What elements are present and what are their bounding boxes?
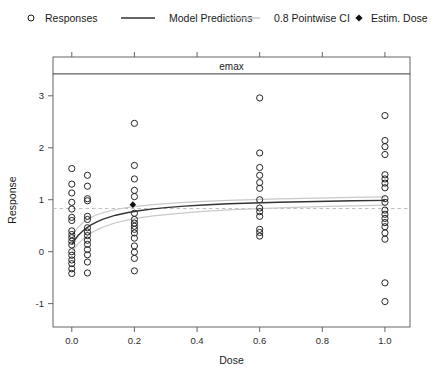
y-tick-label: 0 [39,246,44,257]
panel-strip: emax [53,57,410,74]
x-tick-label: 1.0 [378,335,391,346]
y-tick-label: -1 [36,298,44,309]
x-tick-label: 0.2 [128,335,141,346]
dose-response-figure: Responses Model Predictions 0.8 Pointwis… [0,0,436,375]
y-tick-label: 3 [39,90,44,101]
x-tick-label: 0.0 [65,335,78,346]
plot-root: Responses Model Predictions 0.8 Pointwis… [0,0,436,375]
x-tick-label: 0.8 [316,335,329,346]
y-tick-label: 2 [39,142,44,153]
x-axis-label: Dose [219,354,244,366]
y-tick-label: 1 [39,194,44,205]
legend-label-estim-dose: Estim. Dose [371,12,428,24]
strip-label: emax [219,61,243,72]
legend-label-responses: Responses [45,12,98,24]
x-tick-label: 0.6 [253,335,266,346]
y-axis-label: Response [6,176,18,223]
x-tick-label: 0.4 [190,335,203,346]
legend-label-pointwise-ci: 0.8 Pointwise CI [274,12,350,24]
